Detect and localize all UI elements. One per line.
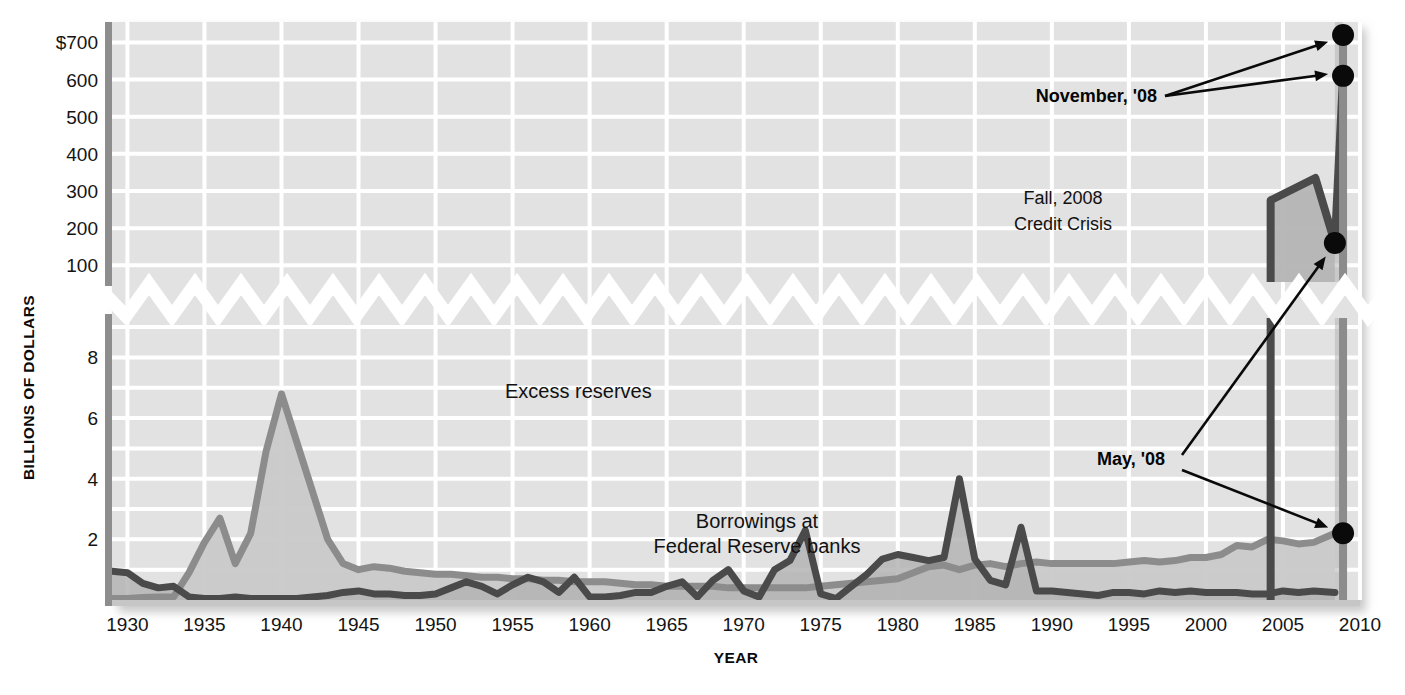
y-tick-label: 6 — [87, 408, 98, 429]
y-tick-label: 600 — [66, 70, 98, 91]
y-tick-label: 500 — [66, 107, 98, 128]
x-tick-label: 1995 — [1108, 614, 1150, 635]
annotation-november-08: November, '08 — [1036, 86, 1157, 106]
x-tick-label: 1945 — [337, 614, 379, 635]
series-label-borrowings-line1: Borrowings at — [696, 510, 819, 532]
annotation-fall-2008-line2: Credit Crisis — [1014, 214, 1112, 234]
marker-november-08-excess-reserves — [1332, 24, 1354, 46]
marker-may-08-borrowings — [1324, 232, 1346, 254]
y-tick-label: 400 — [66, 144, 98, 165]
x-axis-baseline — [112, 600, 1360, 606]
y-tick-label: 4 — [87, 469, 98, 490]
x-tick-label: 2010 — [1339, 614, 1381, 635]
marker-november-08-borrowings — [1332, 65, 1354, 87]
x-axis-title: YEAR — [714, 649, 759, 666]
x-tick-label: 1990 — [1031, 614, 1073, 635]
x-tick-label: 1940 — [260, 614, 302, 635]
x-tick-label: 1960 — [568, 614, 610, 635]
y-tick-label: 2 — [87, 529, 98, 550]
y-tick-labels: $7006005004003002001008642 — [56, 32, 99, 550]
y-axis-title: BILLIONS OF DOLLARS — [20, 295, 37, 480]
y-tick-label: 300 — [66, 181, 98, 202]
x-tick-label: 2000 — [1185, 614, 1227, 635]
x-tick-label: 1980 — [877, 614, 919, 635]
x-tick-label: 1955 — [491, 614, 533, 635]
series-label-borrowings-line2: Federal Reserve banks — [654, 535, 861, 557]
series-label-excess-reserves: Excess reserves — [505, 380, 652, 402]
x-tick-label: 2005 — [1262, 614, 1304, 635]
y-axis-lower — [105, 314, 112, 606]
chart-svg: $7006005004003002001008642 1930193519401… — [0, 0, 1405, 695]
x-tick-label: 1975 — [800, 614, 842, 635]
y-tick-label: 8 — [87, 347, 98, 368]
y-tick-label: $700 — [56, 32, 98, 53]
x-tick-label: 1985 — [954, 614, 996, 635]
x-tick-label: 1965 — [646, 614, 688, 635]
annotation-fall-2008-line1: Fall, 2008 — [1023, 188, 1102, 208]
x-tick-label: 1935 — [183, 614, 225, 635]
y-axis-upper — [105, 22, 112, 286]
x-tick-label: 1930 — [106, 614, 148, 635]
x-tick-label: 1970 — [723, 614, 765, 635]
x-tick-label: 1950 — [414, 614, 456, 635]
x-tick-labels: 1930193519401945195019551960196519701975… — [106, 614, 1381, 635]
y-tick-label: 200 — [66, 218, 98, 239]
y-tick-label: 100 — [66, 255, 98, 276]
marker-may-08-excess-reserves — [1332, 522, 1354, 544]
annotation-may-08: May, '08 — [1097, 449, 1165, 469]
chart-figure: $7006005004003002001008642 1930193519401… — [0, 0, 1405, 695]
